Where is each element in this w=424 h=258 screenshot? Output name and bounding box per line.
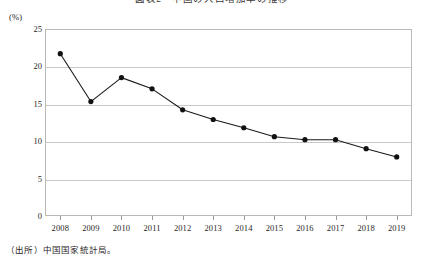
gridline xyxy=(46,180,411,181)
y-axis-tick-label: 20 xyxy=(8,62,42,70)
x-axis-tick-mark xyxy=(91,216,92,220)
x-axis-tick-mark xyxy=(183,216,184,220)
y-axis-unit-label: (%) xyxy=(9,12,22,22)
chart-title: 図表2 中国の人口増加率の推移 xyxy=(0,0,424,4)
y-axis-tick-label: 10 xyxy=(8,137,42,145)
x-axis-tick-label: 2019 xyxy=(377,223,417,233)
x-axis-tick-mark xyxy=(274,216,275,220)
source-note: （出所）中国国家統計局。 xyxy=(6,243,116,255)
y-axis-tick-label: 25 xyxy=(8,25,42,33)
gridline xyxy=(46,142,411,143)
x-axis-tick-mark xyxy=(152,216,153,220)
gridline xyxy=(46,105,411,106)
plot-area xyxy=(45,29,412,216)
y-axis-tick-label: 5 xyxy=(8,175,42,183)
x-axis-tick-mark xyxy=(244,216,245,220)
x-axis-tick-mark xyxy=(366,216,367,220)
gridline xyxy=(46,67,411,68)
x-axis-tick-mark xyxy=(397,216,398,220)
y-axis-tick-label: 0 xyxy=(8,212,42,220)
x-axis-tick-mark xyxy=(336,216,337,220)
x-axis-tick-mark xyxy=(60,216,61,220)
y-axis-tick-label: 15 xyxy=(8,100,42,108)
x-axis-tick-mark xyxy=(305,216,306,220)
x-axis-tick-mark xyxy=(121,216,122,220)
x-axis-tick-mark xyxy=(213,216,214,220)
